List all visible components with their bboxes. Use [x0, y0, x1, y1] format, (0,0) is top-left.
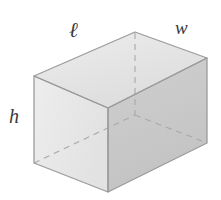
length-label: ℓ — [69, 20, 78, 41]
prism-faces — [34, 32, 207, 192]
height-label: h — [9, 106, 19, 126]
figure-container: ℓ w h — [0, 0, 221, 200]
width-label: w — [175, 18, 188, 37]
